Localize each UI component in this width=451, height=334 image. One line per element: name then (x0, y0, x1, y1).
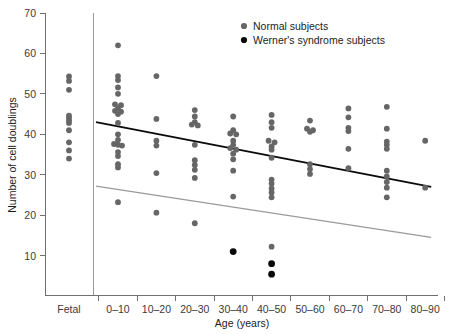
data-point (230, 156, 236, 162)
data-point (115, 91, 121, 97)
data-point (66, 127, 72, 133)
x-tick-label: 20–30 (180, 303, 209, 315)
scatter-plot: 10203040506070 Number of cell doublings … (0, 0, 451, 334)
data-point (66, 120, 72, 126)
data-point (115, 131, 121, 137)
data-point (269, 112, 275, 118)
data-point (230, 194, 236, 200)
data-point (346, 165, 352, 171)
x-tick-group (99, 296, 445, 301)
data-point (384, 168, 390, 174)
data-point (230, 248, 237, 255)
x-tick-label: 50–60 (295, 303, 324, 315)
data-point (307, 129, 313, 135)
x-tick-label: 80–90 (411, 303, 440, 315)
data-point (115, 153, 121, 159)
data-point (307, 171, 313, 177)
data-point (115, 111, 121, 117)
legend-marker-normal (241, 23, 247, 29)
data-point (195, 122, 201, 128)
data-point (66, 148, 72, 154)
data-point (227, 131, 233, 137)
data-point (268, 260, 275, 267)
data-point (269, 194, 275, 200)
data-point (266, 138, 272, 144)
y-tick-label: 30 (24, 169, 36, 181)
data-point (384, 173, 390, 179)
y-axis-group: 10203040506070 Number of cell doublings (6, 7, 46, 296)
data-point (154, 143, 160, 149)
y-tick-group: 10203040506070 (24, 7, 45, 262)
data-point (269, 125, 275, 131)
data-point (230, 114, 236, 120)
x-tick-label: 40–50 (257, 303, 286, 315)
trendline-normal (96, 122, 431, 187)
legend-label-werner: Werner's syndrome subjects (253, 34, 385, 46)
x-axis-title: Age (years) (215, 317, 269, 329)
data-point (154, 210, 160, 216)
x-tick-label: Fetal (57, 303, 80, 315)
y-tick-label: 40 (24, 128, 36, 140)
x-axis-group: Fetal0–1010–2020–3030–4040–5050–6060–707… (46, 296, 445, 330)
data-point (269, 147, 275, 153)
data-point (269, 244, 275, 250)
y-tick-label: 70 (24, 7, 36, 19)
x-tick-label: 10–20 (142, 303, 171, 315)
y-tick-label: 20 (24, 209, 36, 221)
x-tick-label: 0–10 (106, 303, 130, 315)
y-tick-label: 10 (24, 250, 36, 262)
legend: Normal subjects Werner's syndrome subjec… (241, 20, 385, 46)
data-point (115, 199, 121, 205)
y-tick-label: 60 (24, 47, 36, 59)
data-point (269, 155, 275, 161)
data-point-group (66, 42, 428, 277)
data-point (384, 194, 390, 200)
y-axis-title: Number of cell doublings (6, 97, 18, 213)
trendline-werner (96, 186, 431, 237)
data-point (422, 185, 428, 191)
data-point (307, 118, 313, 124)
data-point (115, 84, 121, 90)
data-point (192, 167, 198, 173)
data-point (115, 77, 121, 83)
data-point (346, 128, 352, 134)
data-point (268, 271, 275, 278)
data-point (66, 156, 72, 162)
data-point (119, 143, 125, 149)
x-tick-label-group: Fetal0–1010–2020–3030–4040–5050–6060–707… (57, 303, 440, 315)
data-point (269, 119, 275, 125)
data-point (192, 142, 198, 148)
data-point (154, 170, 160, 176)
data-point (230, 168, 236, 174)
x-tick-label: 60–70 (334, 303, 363, 315)
x-tick-label: 30–40 (219, 303, 248, 315)
data-point (192, 220, 198, 226)
legend-marker-werner (241, 37, 247, 43)
data-point (66, 139, 72, 145)
data-point (233, 131, 239, 137)
data-point (384, 146, 390, 152)
data-point (115, 165, 121, 171)
data-point (192, 114, 198, 120)
data-point (384, 104, 390, 110)
data-point (66, 87, 72, 93)
data-point (115, 120, 121, 126)
data-point (384, 185, 390, 191)
data-point (192, 175, 198, 181)
figure-container: 10203040506070 Number of cell doublings … (0, 0, 451, 334)
data-point (154, 116, 160, 122)
y-tick-label: 50 (24, 88, 36, 100)
data-point (346, 114, 352, 120)
data-point (422, 138, 428, 144)
trendline-group (96, 122, 431, 237)
data-point (192, 107, 198, 113)
data-point (384, 126, 390, 132)
data-point (66, 78, 72, 84)
data-point (384, 179, 390, 185)
data-point (346, 146, 352, 152)
data-point (346, 106, 352, 112)
data-point (227, 145, 233, 151)
data-point (154, 73, 160, 79)
legend-label-normal: Normal subjects (253, 20, 328, 32)
data-point (189, 122, 195, 128)
